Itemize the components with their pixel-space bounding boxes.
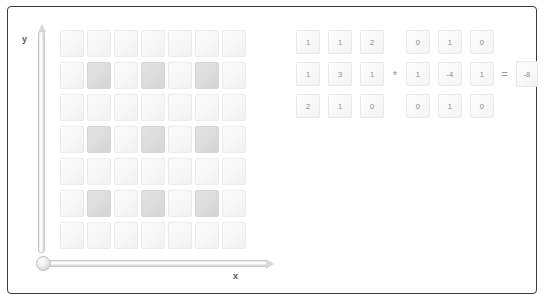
pixel-cell-r5-c1 [60, 158, 84, 185]
pixel-cell-r6-c5 [168, 190, 192, 217]
pixel-cell-r2-c1 [60, 62, 84, 89]
kernel-cell-r1-c2: 1 [438, 30, 462, 54]
kernel-cell-r2-c3: 1 [470, 62, 494, 86]
kernel-cell-r2-c1: 1 [406, 62, 430, 86]
y-axis-label: y [22, 34, 27, 44]
x-axis-arrow-icon [266, 259, 274, 269]
pixel-cell-r5-c3 [114, 158, 138, 185]
pixel-cell-r2-c3 [114, 62, 138, 89]
kernel-cell-r3-c2: 1 [438, 94, 462, 118]
pixel-grid [60, 30, 247, 252]
pixel-cell-r6-c2 [87, 190, 111, 217]
patch-cell-r2-c2: 3 [328, 62, 352, 86]
pixel-cell-r6-c3 [114, 190, 138, 217]
pixel-cell-r7-c4 [141, 222, 165, 249]
y-axis [38, 31, 45, 253]
equals-operator: = [494, 69, 516, 80]
pixel-cell-r5-c5 [168, 158, 192, 185]
x-axis [41, 260, 269, 267]
pixel-cell-r1-c1 [60, 30, 84, 57]
pixel-cell-r6-c7 [222, 190, 246, 217]
pixel-cell-r3-c3 [114, 94, 138, 121]
pixel-cell-r4-c7 [222, 126, 246, 153]
pixel-cell-r1-c7 [222, 30, 246, 57]
pixel-cell-r5-c7 [222, 158, 246, 185]
pixel-cell-r2-c6 [195, 62, 219, 89]
pixel-cell-r7-c5 [168, 222, 192, 249]
pixel-cell-r5-c6 [195, 158, 219, 185]
kernel-cell-r3-c1: 0 [406, 94, 430, 118]
patch-cell-r1-c2: 1 [328, 30, 352, 54]
x-axis-label: x [233, 271, 238, 281]
pixel-cell-r1-c4 [141, 30, 165, 57]
pixel-cell-r3-c2 [87, 94, 111, 121]
pixel-cell-r4-c5 [168, 126, 192, 153]
patch-cell-r2-c1: 1 [296, 62, 320, 86]
pixel-cell-r7-c3 [114, 222, 138, 249]
pixel-cell-r3-c6 [195, 94, 219, 121]
pixel-cell-r3-c4 [141, 94, 165, 121]
pixel-cell-r3-c1 [60, 94, 84, 121]
pixel-cell-r4-c1 [60, 126, 84, 153]
grid-diagram: y x [8, 7, 293, 295]
pixel-cell-r1-c5 [168, 30, 192, 57]
pixel-cell-r7-c2 [87, 222, 111, 249]
pixel-cell-r4-c6 [195, 126, 219, 153]
image-patch-matrix: 112131210 [296, 30, 384, 118]
pixel-cell-r6-c4 [141, 190, 165, 217]
patch-cell-r3-c3: 0 [360, 94, 384, 118]
kernel-matrix: 0101-41010 [406, 30, 494, 118]
pixel-cell-r5-c4 [141, 158, 165, 185]
diagram-frame: y x 112131210 * 0101-41010 = -8 [7, 6, 537, 294]
kernel-cell-r1-c3: 0 [470, 30, 494, 54]
convolution-equation: 112131210 * 0101-41010 = -8 [296, 29, 538, 119]
pixel-cell-r5-c2 [87, 158, 111, 185]
pixel-cell-r1-c2 [87, 30, 111, 57]
pixel-cell-r1-c3 [114, 30, 138, 57]
patch-cell-r3-c2: 1 [328, 94, 352, 118]
patch-cell-r1-c3: 2 [360, 30, 384, 54]
pixel-cell-r1-c6 [195, 30, 219, 57]
patch-cell-r1-c1: 1 [296, 30, 320, 54]
pixel-cell-r7-c6 [195, 222, 219, 249]
pixel-cell-r4-c2 [87, 126, 111, 153]
pixel-cell-r2-c2 [87, 62, 111, 89]
pixel-cell-r3-c7 [222, 94, 246, 121]
pixel-cell-r2-c5 [168, 62, 192, 89]
result-cell: -8 [516, 61, 538, 87]
pixel-cell-r2-c4 [141, 62, 165, 89]
pixel-cell-r4-c4 [141, 126, 165, 153]
pixel-cell-r7-c1 [60, 222, 84, 249]
kernel-cell-r3-c3: 0 [470, 94, 494, 118]
pixel-cell-r3-c5 [168, 94, 192, 121]
pixel-cell-r2-c7 [222, 62, 246, 89]
kernel-cell-r2-c2: -4 [438, 62, 462, 86]
patch-cell-r3-c1: 2 [296, 94, 320, 118]
origin-marker-icon [36, 256, 51, 271]
kernel-cell-r1-c1: 0 [406, 30, 430, 54]
pixel-cell-r7-c7 [222, 222, 246, 249]
pixel-cell-r6-c6 [195, 190, 219, 217]
pixel-cell-r6-c1 [60, 190, 84, 217]
pixel-cell-r4-c3 [114, 126, 138, 153]
patch-cell-r2-c3: 1 [360, 62, 384, 86]
convolution-operator: * [384, 68, 406, 81]
